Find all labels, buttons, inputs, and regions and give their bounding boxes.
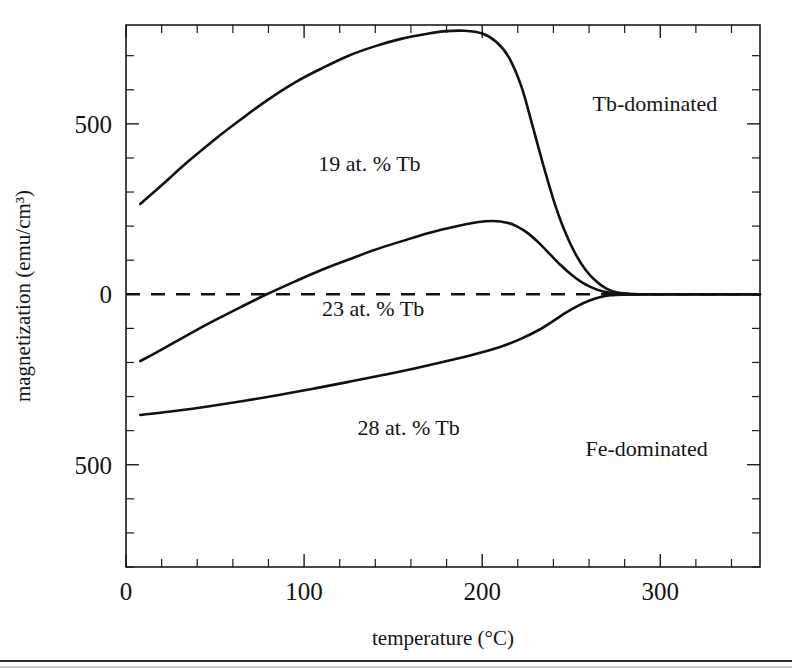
figure-container: 0100200300 5000500 19 at. % Tb23 at. % T… bbox=[0, 0, 792, 668]
x-tick-label: 100 bbox=[285, 578, 323, 605]
region-tb-dominated: Tb-dominated bbox=[593, 91, 718, 116]
y-tick-label: 500 bbox=[75, 452, 113, 479]
magnetization-vs-temperature-chart: 0100200300 5000500 19 at. % Tb23 at. % T… bbox=[0, 0, 792, 668]
x-axis-title: temperature (°C) bbox=[372, 626, 514, 650]
x-tick-label: 200 bbox=[463, 578, 501, 605]
y-tick-label: 0 bbox=[100, 281, 113, 308]
x-tick-label: 0 bbox=[120, 578, 133, 605]
y-axis-title: magnetization (emu/cm³) bbox=[11, 190, 35, 402]
series-label-1: 19 at. % Tb bbox=[318, 151, 420, 176]
y-tick-label: 500 bbox=[75, 111, 113, 138]
x-tick-label: 300 bbox=[642, 578, 680, 605]
series-label-3: 28 at. % Tb bbox=[358, 415, 460, 440]
region-fe-dominated: Fe-dominated bbox=[585, 436, 707, 461]
series-label-2: 23 at. % Tb bbox=[322, 296, 424, 321]
